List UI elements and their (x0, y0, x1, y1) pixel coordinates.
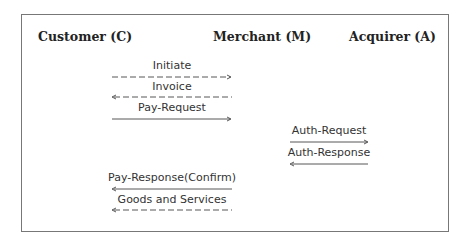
message-arrows (0, 0, 468, 244)
